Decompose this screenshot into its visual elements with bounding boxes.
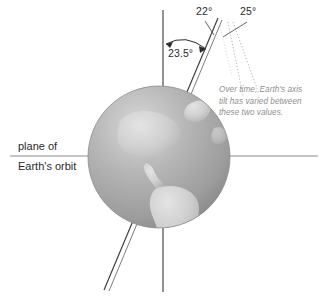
- orbit-plane-label-line1: plane of: [18, 140, 57, 152]
- angle-label-25: 25°: [240, 6, 256, 18]
- orbit-plane-label-line2: Earth's orbit: [18, 160, 76, 172]
- tilt-variation-annotation: Over time, Earth's axis tilt has varied …: [219, 84, 302, 119]
- earth-globe: [88, 86, 230, 244]
- angle-label-23-5: 23.5°: [168, 48, 193, 60]
- tilt-fan-dotted: [220, 26, 232, 76]
- annotation-line-2: tilt has varied between: [219, 96, 302, 108]
- earth-axial-tilt-diagram: 22° 25° 23.5° plane of Earth's orbit Ove…: [0, 0, 330, 301]
- leader-line-22: [205, 21, 214, 35]
- angle-label-22: 22°: [196, 6, 212, 18]
- annotation-line-1: Over time, Earth's axis: [219, 84, 302, 96]
- south-america-shape: [150, 186, 199, 244]
- leader-line-25: [223, 22, 247, 37]
- annotation-line-3: these two values.: [219, 107, 302, 119]
